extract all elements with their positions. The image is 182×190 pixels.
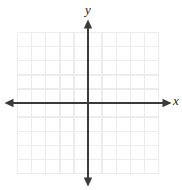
- x-axis-label: x: [172, 93, 179, 108]
- axes: [5, 20, 172, 187]
- y-axis-label: y: [83, 2, 91, 17]
- coordinate-plane-figure: y x: [0, 0, 182, 190]
- coordinate-plane-svg: y x: [0, 0, 182, 190]
